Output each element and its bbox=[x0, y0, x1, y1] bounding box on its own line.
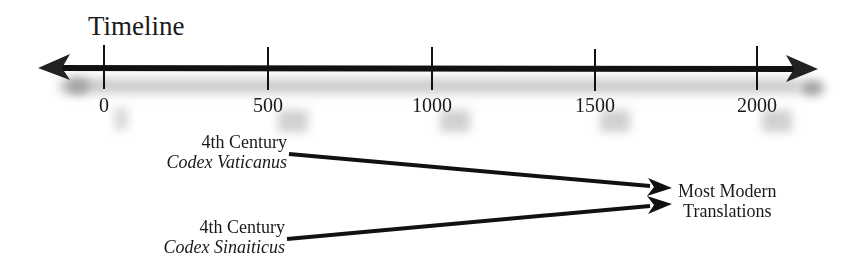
arrowhead-icon bbox=[647, 196, 672, 214]
manuscript-arrows bbox=[287, 154, 672, 239]
tick-label-500: 500 bbox=[253, 95, 283, 115]
manuscript-vaticanus: 4th Century Codex Vaticanus bbox=[167, 132, 287, 172]
manuscript-century: 4th Century bbox=[167, 132, 287, 152]
timeline-graphic bbox=[0, 0, 857, 269]
manuscript-sinaiticus: 4th Century Codex Sinaiticus bbox=[164, 217, 285, 257]
target-line-2: Translations bbox=[678, 201, 777, 221]
arrowhead-icon bbox=[647, 178, 672, 196]
tick-label-1000: 1000 bbox=[412, 95, 452, 115]
tick-label-2000: 2000 bbox=[737, 95, 777, 115]
target-line-1: Most Modern bbox=[678, 181, 777, 201]
tick-label-0: 0 bbox=[99, 95, 109, 115]
tick-label-1500: 1500 bbox=[575, 95, 615, 115]
modern-translations-label: Most Modern Translations bbox=[678, 181, 777, 221]
manuscript-name: Codex Vaticanus bbox=[167, 152, 287, 172]
manuscript-century: 4th Century bbox=[164, 217, 285, 237]
manuscript-name: Codex Sinaiticus bbox=[164, 237, 285, 257]
